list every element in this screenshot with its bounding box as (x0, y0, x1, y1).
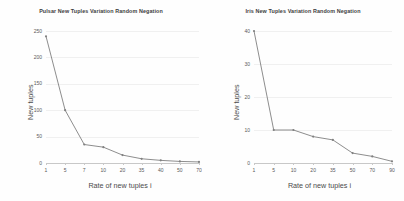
data-point-marker (121, 154, 123, 156)
x-tick-label: 7 (75, 168, 93, 173)
x-tick-mark (142, 163, 143, 165)
data-point-marker (160, 159, 162, 161)
data-point-marker (332, 139, 334, 141)
x-tick-label: 35 (133, 168, 151, 173)
data-point-marker (312, 136, 314, 138)
plot-area-iris: 01020304015102035507090 (254, 31, 392, 163)
x-tick-mark (84, 163, 85, 165)
data-point-marker (102, 146, 104, 148)
x-tick-label: 10 (284, 168, 302, 173)
y-tick-label: 30 (232, 62, 250, 67)
y-tick-label: 250 (24, 29, 42, 34)
chart-pair-figure: Pulsar New Tuples Variation Random Negat… (0, 0, 404, 201)
x-tick-label: 1 (37, 168, 55, 173)
x-tick-label: 40 (152, 168, 170, 173)
x-tick-label: 20 (304, 168, 322, 173)
x-tick-label: 50 (344, 168, 362, 173)
x-tick-mark (274, 163, 275, 165)
y-axis-title-pulsar: New tuples (26, 84, 35, 120)
x-tick-mark (199, 163, 200, 165)
x-tick-label: 20 (114, 168, 132, 173)
x-tick-mark (333, 163, 334, 165)
chart-title-iris: Iris New Tuples Variation Random Negatio… (202, 8, 404, 14)
y-axis-title-iris: New tuples (232, 84, 241, 120)
y-tick-label: 150 (24, 81, 42, 86)
x-tick-mark (293, 163, 294, 165)
x-tick-mark (123, 163, 124, 165)
y-tick-label: 20 (232, 95, 250, 100)
data-point-marker (371, 155, 373, 157)
y-tick-label: 200 (24, 55, 42, 60)
data-point-marker (292, 129, 294, 131)
data-series-line (254, 31, 392, 163)
x-tick-label: 10 (94, 168, 112, 173)
x-tick-mark (392, 163, 393, 165)
x-tick-mark (313, 163, 314, 165)
data-point-marker (45, 35, 47, 37)
x-tick-label: 35 (324, 168, 342, 173)
x-tick-mark (353, 163, 354, 165)
x-tick-mark (161, 163, 162, 165)
x-tick-label: 1 (245, 168, 263, 173)
data-point-marker (198, 161, 200, 163)
x-tick-label: 5 (56, 168, 74, 173)
x-tick-label: 5 (265, 168, 283, 173)
x-tick-label: 50 (171, 168, 189, 173)
data-point-marker (64, 109, 66, 111)
chart-panel-pulsar: Pulsar New Tuples Variation Random Negat… (0, 0, 202, 201)
x-axis-title-pulsar: Rate of new tuples i (40, 181, 200, 190)
x-tick-mark (103, 163, 104, 165)
chart-title-pulsar: Pulsar New Tuples Variation Random Negat… (0, 8, 202, 14)
y-tick-label: 0 (232, 161, 250, 166)
x-tick-mark (180, 163, 181, 165)
plot-area-pulsar: 050100150200250157102035405070 (46, 31, 199, 163)
x-tick-mark (372, 163, 373, 165)
y-tick-label: 10 (232, 128, 250, 133)
x-tick-mark (65, 163, 66, 165)
data-series-line (46, 31, 199, 163)
data-point-marker (253, 30, 255, 32)
data-point-marker (391, 160, 393, 162)
data-point-marker (179, 160, 181, 162)
x-tick-mark (46, 163, 47, 165)
data-point-marker (273, 129, 275, 131)
chart-panel-iris: Iris New Tuples Variation Random Negatio… (202, 0, 404, 201)
x-axis-title-iris: Rate of new tuples i (247, 181, 392, 190)
x-tick-label: 90 (383, 168, 401, 173)
y-tick-label: 50 (24, 134, 42, 139)
x-tick-mark (254, 163, 255, 165)
x-tick-label: 70 (363, 168, 381, 173)
data-point-marker (141, 158, 143, 160)
y-tick-label: 0 (24, 161, 42, 166)
data-point-marker (83, 143, 85, 145)
y-tick-label: 40 (232, 29, 250, 34)
data-point-marker (351, 152, 353, 154)
y-tick-label: 100 (24, 108, 42, 113)
